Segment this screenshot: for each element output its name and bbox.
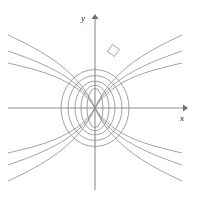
x-axis-label: x [179, 113, 184, 123]
hyperbola-lower-1-mirror [95, 108, 182, 181]
hyperbola-upper-1 [8, 35, 95, 108]
y-axis-label: y [80, 13, 85, 23]
y-axis-arrowhead [92, 14, 99, 19]
figure-canvas: y x [0, 0, 197, 198]
conformal-map-figure: y x [0, 0, 197, 198]
axes-group [8, 19, 183, 190]
x-axis-arrowhead [183, 105, 188, 112]
hyperbola-lower-1 [8, 108, 95, 181]
right-angle-marker [108, 45, 120, 57]
hyperbola-upper-1-mirror [95, 35, 182, 108]
